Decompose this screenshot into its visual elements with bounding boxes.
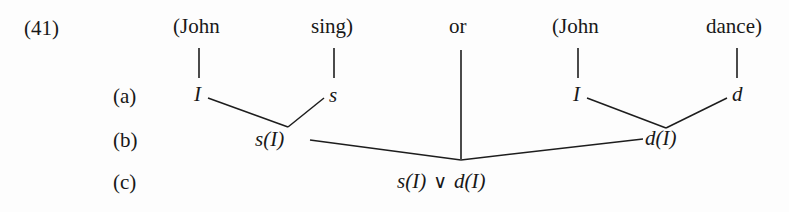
top-right-subject: (John xyxy=(552,16,599,37)
figure-canvas: (41) (a) (b) (c) (John sing) or (John da… xyxy=(0,0,789,212)
row-c-left-term: s(I) xyxy=(397,169,426,193)
row-label-b: (b) xyxy=(113,130,138,151)
top-connective-or: or xyxy=(449,16,467,37)
branch-left-predicate-to-si xyxy=(288,98,324,127)
example-number: (41) xyxy=(24,18,59,39)
row-b-left-result: s(I) xyxy=(255,129,284,150)
branch-si-to-disjunction xyxy=(310,140,461,160)
row-label-a: (a) xyxy=(113,86,136,107)
branch-left-subject-to-si xyxy=(208,98,288,127)
top-right-predicate: dance) xyxy=(706,16,762,37)
top-left-predicate: sing) xyxy=(311,16,353,37)
row-label-c: (c) xyxy=(113,172,136,193)
branch-right-predicate-to-di xyxy=(666,98,727,128)
top-left-subject: (John xyxy=(173,16,220,37)
row-c-right-term: d(I) xyxy=(454,169,485,193)
row-c-disjunction: s(I)∨d(I) xyxy=(397,171,486,192)
row-a-left-predicate-symbol: s xyxy=(329,85,337,106)
row-b-right-result: d(I) xyxy=(645,128,676,149)
row-c-disjunction-operator: ∨ xyxy=(433,171,447,192)
row-a-right-predicate-symbol: d xyxy=(732,84,743,105)
branch-right-subject-to-di xyxy=(587,98,666,128)
branch-di-to-disjunction xyxy=(461,139,643,160)
row-a-left-subject-symbol: I xyxy=(194,84,201,105)
row-a-right-subject-symbol: I xyxy=(573,84,580,105)
